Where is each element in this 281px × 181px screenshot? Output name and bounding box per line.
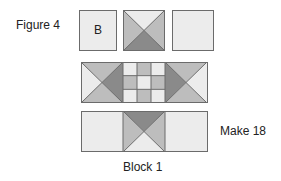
figure-label: Figure 4 bbox=[16, 18, 60, 32]
nine-patch bbox=[123, 62, 165, 103]
block-caption: Block 1 bbox=[123, 160, 162, 174]
bottom-row-unit bbox=[81, 111, 208, 152]
hourglass-square-top bbox=[123, 10, 165, 51]
square-b-label: B bbox=[80, 23, 116, 37]
plain-square bbox=[172, 10, 214, 51]
middle-row-unit bbox=[81, 62, 208, 103]
square-b: B bbox=[79, 10, 117, 51]
make-count-label: Make 18 bbox=[220, 124, 266, 138]
